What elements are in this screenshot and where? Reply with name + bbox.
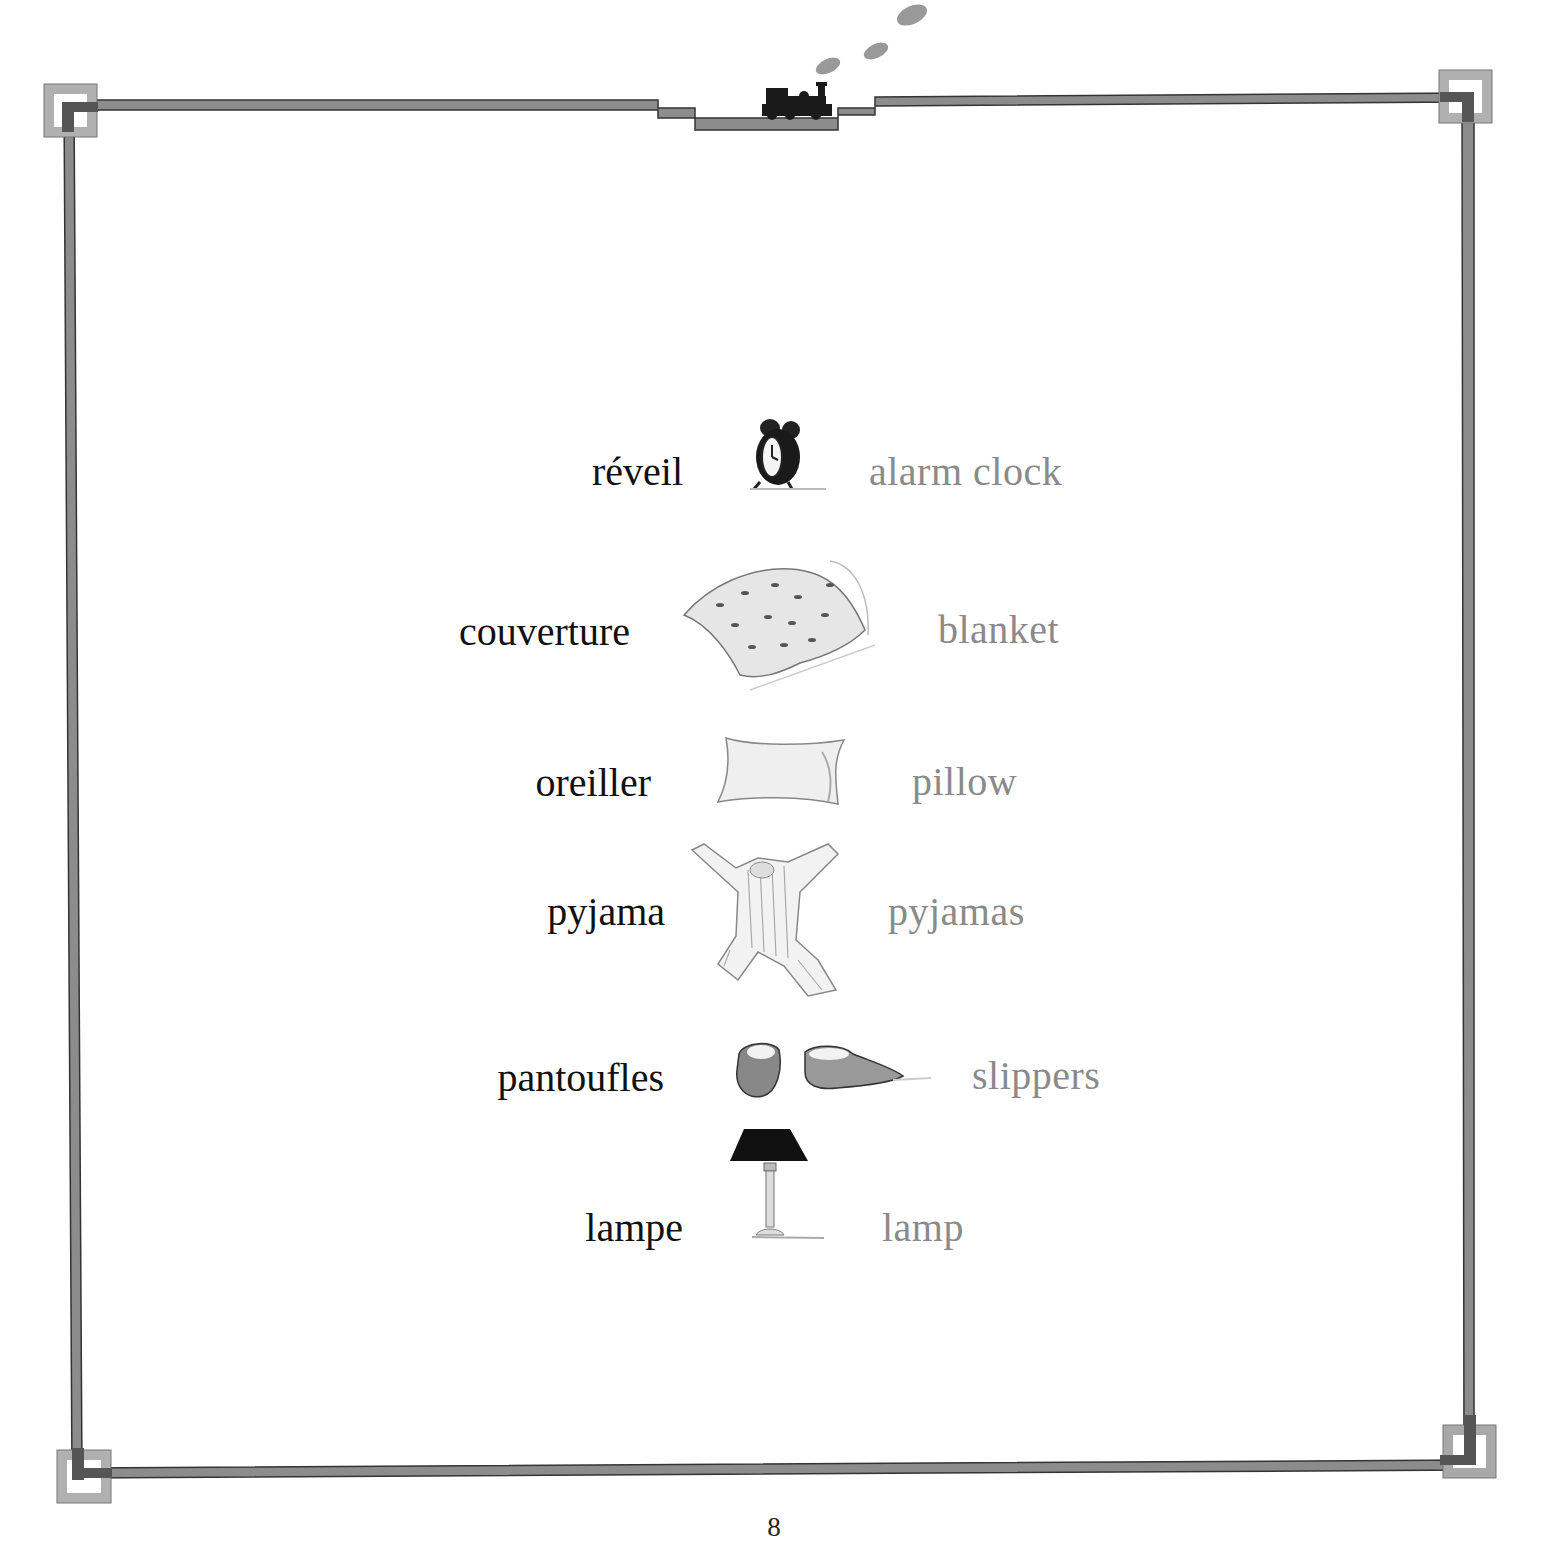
french-word-reveil: réveil [480, 452, 683, 492]
slippers-icon [733, 1040, 933, 1102]
corner-square-top-right [1439, 70, 1492, 123]
french-word-oreiller: oreiller [450, 763, 651, 803]
blanket-icon [680, 555, 880, 695]
corner-square-bottom-right [1440, 1415, 1496, 1478]
corner-square-bottom-left [57, 1448, 112, 1503]
english-word-alarm-clock: alarm clock [869, 452, 1062, 492]
english-word-lamp: lamp [882, 1208, 964, 1248]
pyjamas-icon [688, 840, 843, 1000]
english-word-pillow: pillow [912, 762, 1017, 802]
alarm-clock-icon [748, 412, 830, 492]
lamp-icon [728, 1125, 828, 1245]
french-word-lampe: lampe [480, 1208, 683, 1248]
english-word-pyjamas: pyjamas [888, 892, 1025, 932]
english-word-slippers: slippers [972, 1056, 1100, 1096]
pillow-icon [712, 732, 852, 810]
page-number: 8 [0, 1512, 1548, 1541]
french-word-pantoufles: pantoufles [420, 1058, 664, 1098]
french-word-pyjama: pyjama [460, 892, 665, 932]
corner-square-top-left [44, 84, 98, 137]
english-word-blanket: blanket [938, 610, 1059, 650]
french-word-couverture: couverture [380, 612, 630, 652]
